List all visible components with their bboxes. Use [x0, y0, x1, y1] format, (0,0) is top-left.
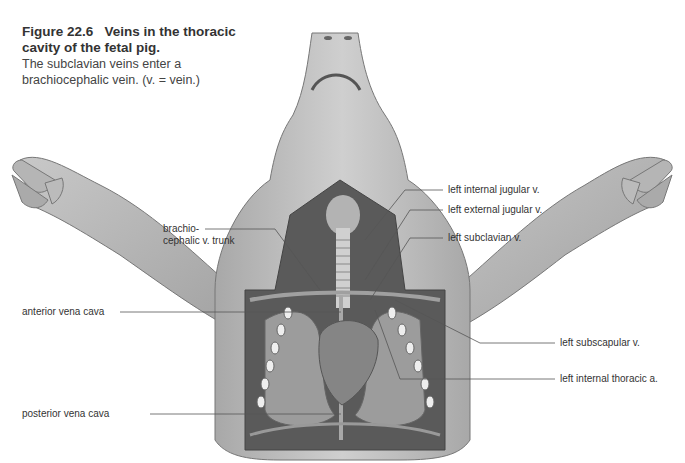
label-line-2: cephalic v. trunk: [163, 235, 235, 247]
label-brachiocephalic-trunk: brachio- cephalic v. trunk: [163, 223, 235, 247]
label-left-subclavian: left subclavian v.: [448, 232, 521, 244]
fetal-pig-illustration: [0, 0, 685, 463]
label-left-internal-thoracic: left internal thoracic a.: [560, 373, 658, 385]
nostril-right: [344, 36, 352, 40]
label-left-internal-jugular: left internal jugular v.: [448, 184, 540, 196]
label-posterior-vena-cava: posterior vena cava: [22, 408, 109, 420]
label-left-subscapular: left subscapular v.: [560, 337, 640, 349]
label-line-1: brachio-: [163, 223, 235, 235]
label-anterior-vena-cava: anterior vena cava: [22, 306, 104, 318]
nostril-left: [324, 36, 332, 40]
label-left-external-jugular: left external jugular v.: [448, 204, 542, 216]
